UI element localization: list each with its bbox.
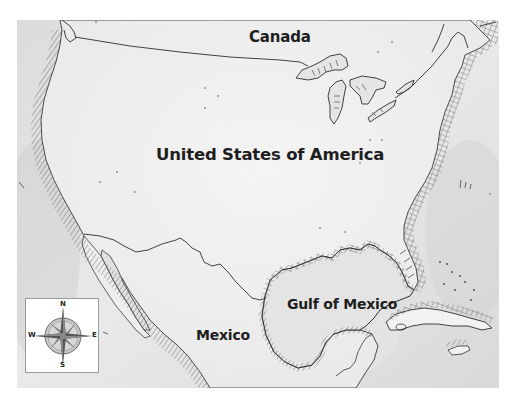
- compass-west: W: [28, 331, 36, 339]
- compass-rose: N S W E: [25, 298, 99, 373]
- compass-south: S: [60, 361, 65, 369]
- label-canada: Canada: [249, 28, 311, 46]
- label-gulf-of-mexico: Gulf of Mexico: [287, 296, 397, 312]
- label-united-states: United States of America: [156, 145, 384, 164]
- compass-east: E: [92, 331, 97, 339]
- compass-north: N: [60, 300, 66, 308]
- label-mexico: Mexico: [196, 327, 250, 343]
